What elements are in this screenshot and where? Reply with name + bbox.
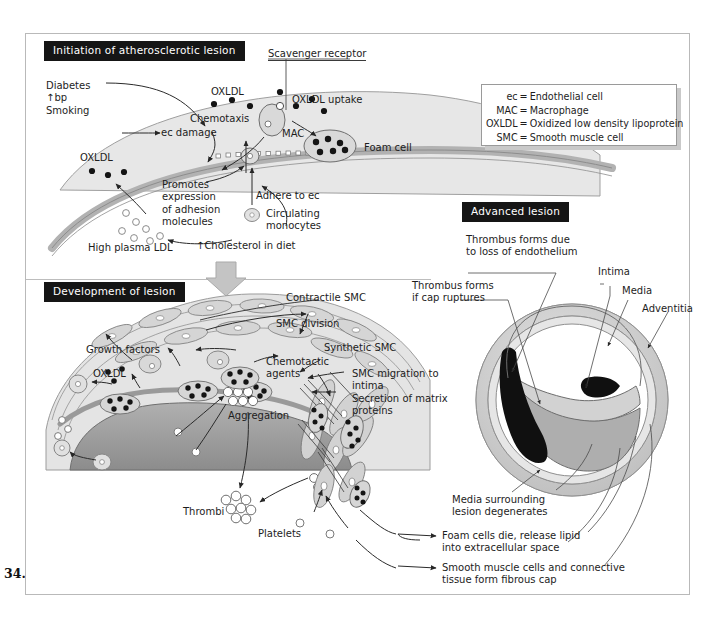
legend-equals: = (520, 105, 530, 119)
label-smc-migration: SMC migration to intima Secretion of mat… (352, 368, 448, 418)
label-circulating-monocytes: Circulating monocytes (266, 208, 321, 233)
legend-equals: = (520, 91, 530, 105)
legend-row: ec = Endothelial cell (486, 91, 685, 105)
label-thrombi: Thrombi (183, 506, 224, 518)
label-high-plasma-ldl: High plasma LDL (88, 242, 173, 254)
legend-key: MAC (486, 105, 520, 119)
banner-advanced-lesion: Advanced lesion (462, 202, 569, 222)
abbreviation-legend: ec = Endothelial cell MAC = Macrophage O… (481, 84, 677, 146)
label-ec-damage: ec damage (161, 127, 217, 139)
label-platelets: Platelets (258, 528, 301, 540)
banner-development: Development of lesion (44, 282, 185, 302)
label-intima: Intima (598, 266, 630, 278)
label-oxldl-uptake: OXLDL uptake (292, 94, 362, 106)
label-cholesterol-in-diet: ↑Cholesterol in diet (196, 240, 296, 252)
label-media: Media (622, 285, 652, 297)
legend-key: SMC (486, 132, 520, 146)
legend-key: OXLDL (486, 118, 520, 132)
label-chemotactic-agents: Chemotactic agents (266, 356, 329, 381)
label-thrombus-cap-ruptures: Thrombus forms if cap ruptures (412, 280, 494, 305)
label-foam-cells-die: Foam cells die, release lipid into extra… (442, 530, 580, 555)
label-fibrous-cap: Smooth muscle cells and connective tissu… (442, 562, 625, 587)
label-foam-cell: Foam cell (364, 142, 412, 154)
legend-equals: = (520, 132, 530, 146)
label-scavenger-receptor: Scavenger receptor (268, 48, 366, 61)
legend-row: SMC = Smooth muscle cell (486, 132, 685, 146)
label-thrombus-loss-endothelium: Thrombus forms due to loss of endotheliu… (466, 234, 578, 259)
banner-initiation: Initiation of atherosclerotic lesion (44, 41, 245, 61)
legend-row: MAC = Macrophage (486, 105, 685, 119)
label-aggregation: Aggregation (228, 410, 289, 422)
label-media-degenerates: Media surrounding lesion degenerates (452, 494, 548, 519)
label-adhere-to-ec: Adhere to ec (256, 190, 320, 202)
legend-key: ec (486, 91, 520, 105)
label-mac: MAC (282, 128, 304, 140)
label-oxldl-top: OXLDL (211, 86, 244, 98)
label-chemotaxis: Chemotaxis (190, 113, 249, 125)
legend-value: Smooth muscle cell (530, 132, 686, 146)
legend-table: ec = Endothelial cell MAC = Macrophage O… (486, 91, 685, 145)
label-adventitia: Adventitia (642, 303, 693, 315)
legend-value: Macrophage (530, 105, 686, 119)
label-synthetic-smc: Synthetic SMC (324, 342, 396, 354)
label-smc-division: SMC division (276, 318, 339, 330)
transition-arrow (206, 262, 246, 296)
legend-row: OXLDL = Oxidized low density lipoprotein (486, 118, 685, 132)
label-oxldl-left: OXLDL (80, 152, 113, 164)
label-promotes-adhesion: Promotes expression of adhesion molecule… (162, 179, 220, 229)
legend-value: Oxidized low density lipoprotein (530, 118, 686, 132)
label-oxldl-development: OXLDL (93, 368, 126, 380)
legend-value: Endothelial cell (530, 91, 686, 105)
legend-equals: = (520, 118, 530, 132)
label-risk-factors: Diabetes ↑bp Smoking (46, 80, 90, 117)
label-growth-factors: Growth factors (86, 344, 160, 356)
label-contractile-smc: Contractile SMC (286, 292, 366, 304)
